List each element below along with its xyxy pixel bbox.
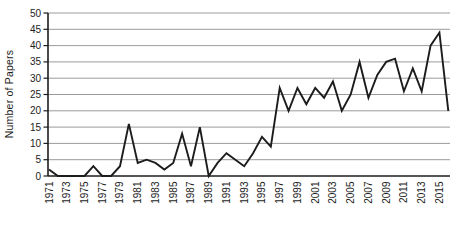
x-tick-label: 1985 bbox=[168, 181, 179, 204]
y-tick-label: 30 bbox=[30, 73, 42, 84]
y-tick-label: 35 bbox=[30, 56, 42, 67]
x-tick-label: 1977 bbox=[97, 181, 108, 204]
y-tick-label: 0 bbox=[35, 171, 41, 182]
x-tick-label: 1991 bbox=[221, 181, 232, 204]
data-line-number-of-papers bbox=[49, 33, 448, 176]
x-tick-label: 1981 bbox=[132, 181, 143, 204]
y-tick-label: 40 bbox=[30, 40, 42, 51]
y-tick-label: 25 bbox=[30, 89, 42, 100]
x-tick-label: 1997 bbox=[274, 181, 285, 204]
x-tick-label: 1999 bbox=[292, 181, 303, 204]
x-tick-label: 2005 bbox=[345, 181, 356, 204]
y-tick-label: 45 bbox=[30, 24, 42, 35]
y-tick-label: 10 bbox=[30, 138, 42, 149]
y-tick-label: 20 bbox=[30, 105, 42, 116]
x-tick-label: 1989 bbox=[203, 181, 214, 204]
chart-canvas: 0510152025303540455019711973197519771979… bbox=[0, 0, 463, 234]
x-tick-label: 1979 bbox=[114, 181, 125, 204]
x-tick-label: 1971 bbox=[44, 181, 55, 204]
x-tick-label: 2013 bbox=[416, 181, 427, 204]
x-tick-label: 1975 bbox=[79, 181, 90, 204]
line-chart-figure: Number of Papers 05101520253035404550197… bbox=[0, 0, 463, 234]
x-tick-label: 1973 bbox=[61, 181, 72, 204]
x-tick-label: 1983 bbox=[150, 181, 161, 204]
x-tick-label: 2009 bbox=[381, 181, 392, 204]
y-tick-label: 50 bbox=[30, 8, 42, 19]
y-tick-label: 5 bbox=[35, 154, 41, 165]
x-tick-label: 1987 bbox=[185, 181, 196, 204]
x-tick-label: 2007 bbox=[363, 181, 374, 204]
x-tick-label: 1993 bbox=[239, 181, 250, 204]
x-tick-label: 1995 bbox=[256, 181, 267, 204]
x-tick-label: 2003 bbox=[327, 181, 338, 204]
x-tick-label: 2011 bbox=[398, 181, 409, 203]
x-tick-label: 2001 bbox=[310, 181, 321, 204]
x-tick-label: 2015 bbox=[434, 181, 445, 204]
y-tick-label: 15 bbox=[30, 122, 42, 133]
